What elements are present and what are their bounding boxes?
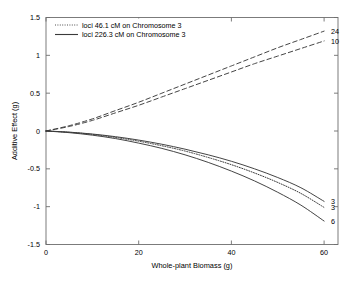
additive-effect-chart: -1.5-1-0.500.511.5 0204060 2410336 Whole…: [0, 0, 361, 283]
x-axis-label: Whole-plant Biomass (g): [152, 261, 233, 270]
y-tick-label: 0.5: [30, 89, 40, 98]
y-axis-label: Additive Effect (g): [10, 102, 19, 160]
y-tick-label: 0: [36, 127, 40, 136]
curve-end-label-24: 24: [331, 27, 339, 36]
y-tick-label: 1: [36, 51, 40, 60]
y-tick-label: -1: [34, 202, 40, 211]
x-tick-label: 40: [227, 248, 235, 257]
curve-end-label-6: 6: [331, 217, 335, 226]
legend-label-0: loci 46.1 cM on Chromosome 3: [82, 21, 181, 30]
legend: loci 46.1 cM on Chromosome 3 loci 226.3 …: [51, 19, 199, 40]
legend-label-1: loci 226.3 cM on Chromosome 3: [82, 30, 185, 39]
x-tick-label: 0: [44, 248, 48, 257]
x-tick-label: 20: [135, 248, 143, 257]
figure-canvas: -1.5-1-0.500.511.5 0204060 2410336 Whole…: [0, 0, 361, 283]
chart-background: [0, 0, 361, 283]
x-tick-label: 60: [320, 248, 328, 257]
y-tick-label: -0.5: [28, 164, 40, 173]
curve-end-label-3-dotted: 3: [331, 203, 335, 212]
y-tick-label: 1.5: [30, 13, 40, 22]
y-tick-label: -1.5: [28, 240, 40, 249]
curve-end-label-10: 10: [331, 37, 339, 46]
